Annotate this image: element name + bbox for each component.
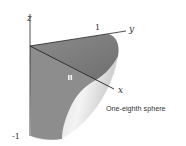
z-axis-label: z	[26, 13, 32, 23]
z-tick-label: -1	[12, 132, 20, 141]
figure-caption: One-eighth sphere	[106, 104, 166, 113]
x-axis-label: x	[118, 85, 123, 95]
marker-icon	[71, 75, 73, 80]
marker-icon	[68, 75, 70, 80]
one-eighth-sphere-diagram: z y x 1 -1 One-eighth sphere	[0, 0, 186, 146]
y-tick-label: 1	[95, 23, 100, 32]
y-axis-label: y	[128, 24, 135, 34]
